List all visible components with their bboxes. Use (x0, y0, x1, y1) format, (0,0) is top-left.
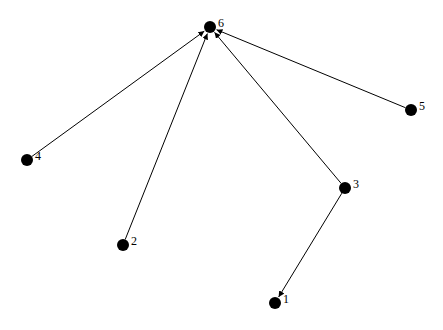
node-label: 3 (353, 177, 359, 191)
directed-graph: 123456 (0, 0, 443, 330)
node-3[interactable]: 3 (339, 177, 359, 194)
node-6[interactable]: 6 (204, 16, 224, 33)
edge-4-to-6 (32, 31, 204, 156)
node-2[interactable]: 2 (117, 234, 137, 251)
node-circle[interactable] (405, 104, 417, 116)
node-4[interactable]: 4 (21, 149, 41, 166)
node-circle[interactable] (117, 239, 129, 251)
node-label: 5 (419, 99, 425, 113)
node-label: 2 (131, 234, 137, 248)
node-label: 1 (283, 292, 289, 306)
node-circle[interactable] (204, 21, 216, 33)
edge-2-to-6 (125, 34, 207, 240)
node-circle[interactable] (339, 182, 351, 194)
node-label: 4 (35, 149, 41, 163)
nodes-group: 123456 (21, 16, 425, 309)
edge-3-to-1 (279, 193, 342, 297)
node-circle[interactable] (269, 297, 281, 309)
edges-group (32, 30, 406, 297)
node-label: 6 (218, 16, 224, 30)
node-1[interactable]: 1 (269, 292, 289, 309)
node-circle[interactable] (21, 154, 33, 166)
node-5[interactable]: 5 (405, 99, 425, 116)
